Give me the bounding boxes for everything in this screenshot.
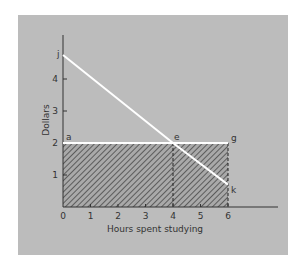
x-tick-label: 5 [198, 211, 204, 221]
point-label-e: e [174, 132, 180, 142]
y-tick-label: 1 [52, 170, 58, 180]
shaded-region [63, 143, 228, 207]
x-tick-label: 2 [115, 211, 121, 221]
x-axis-label: Hours spent studying [107, 224, 203, 234]
point-label-g: g [231, 133, 237, 143]
y-tick-label: 3 [52, 106, 58, 116]
x-tick-label: 3 [143, 211, 149, 221]
x-tick-label: 6 [225, 211, 231, 221]
x-tick-label: 4 [170, 211, 176, 221]
x-tick-label: 1 [88, 211, 94, 221]
y-axis-label: Dollars [41, 104, 51, 136]
point-label-j: j [56, 49, 60, 59]
y-tick-label: 4 [52, 74, 58, 84]
point-label-k: k [231, 185, 237, 195]
point-label-a: a [66, 132, 72, 142]
chart: 1234 0123456 jaegk Hours spent studying … [0, 0, 303, 273]
x-tick-label: 0 [60, 211, 66, 221]
y-tick-label: 2 [52, 138, 58, 148]
